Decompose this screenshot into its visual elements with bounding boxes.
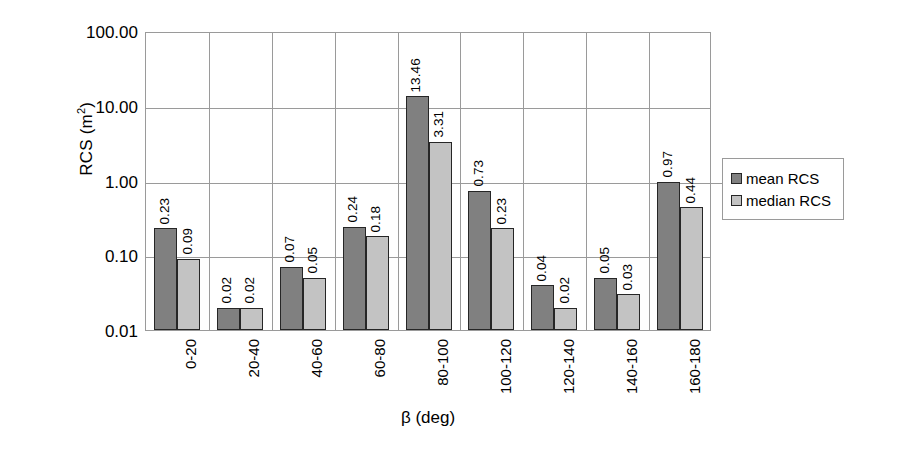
category-group: 13.463.31: [398, 33, 461, 330]
y-tick-label: 0.01: [48, 323, 138, 340]
x-tick-label: 160-180: [687, 339, 702, 394]
category-group: 0.020.02: [209, 33, 272, 330]
category-group: 0.070.05: [272, 33, 335, 330]
bar-value-label: 0.02: [220, 277, 234, 304]
bar-median-rcs: [617, 294, 640, 330]
bar-mean-rcs: [594, 278, 617, 330]
bar-value-label: 13.46: [409, 58, 423, 92]
bar-value-label: 0.02: [243, 277, 257, 304]
x-tick-label: 20-40: [246, 339, 261, 377]
bar-median-rcs: [177, 259, 200, 330]
y-tick-label: 100.00: [48, 24, 138, 41]
category-group: 0.730.23: [460, 33, 523, 330]
bar-mean-rcs: [154, 228, 177, 330]
bar-median-rcs: [240, 308, 263, 331]
bar-value-label: 0.24: [346, 196, 360, 223]
x-tick-label: 60-80: [372, 339, 387, 377]
x-tick-label: 140-160: [624, 339, 639, 394]
x-tick-label: 120-140: [561, 339, 576, 394]
legend-swatch-icon: [731, 173, 742, 184]
bar-median-rcs: [303, 278, 326, 330]
legend-item: mean RCS: [731, 167, 831, 189]
bar-value-label: 3.31: [432, 111, 446, 138]
category-group: 0.240.18: [335, 33, 398, 330]
bar-value-label: 0.02: [557, 277, 571, 304]
bar-value-label: 0.04: [534, 254, 548, 281]
bar-mean-rcs: [217, 308, 240, 331]
bar-value-label: 0.44: [683, 176, 697, 203]
bar-value-label: 0.23: [494, 198, 508, 225]
bar-mean-rcs: [468, 191, 491, 330]
bar-value-label: 0.23: [157, 198, 171, 225]
x-tick-label: 80-100: [435, 339, 450, 386]
bar-median-rcs: [554, 308, 577, 331]
legend-item-label: mean RCS: [746, 170, 819, 187]
y-tick-label: 1.00: [48, 173, 138, 190]
plot-area: 0.230.090.020.020.070.050.240.1813.463.3…: [145, 32, 711, 331]
bar-value-label: 0.03: [620, 264, 634, 291]
legend-item: median RCS: [731, 189, 831, 211]
bar-value-label: 0.73: [471, 160, 485, 187]
x-axis-title: β (deg): [145, 408, 711, 428]
legend-item-label: median RCS: [746, 192, 831, 209]
bar-value-label: 0.05: [597, 247, 611, 274]
y-tick-label: 10.00: [48, 98, 138, 115]
bar-value-label: 0.05: [306, 247, 320, 274]
bar-median-rcs: [491, 228, 514, 330]
bar-value-label: 0.18: [369, 205, 383, 232]
bar-value-label: 0.97: [660, 151, 674, 178]
bar-mean-rcs: [343, 227, 366, 330]
bar-value-label: 0.07: [283, 236, 297, 263]
category-group: 0.230.09: [146, 33, 209, 330]
legend-swatch-icon: [731, 195, 742, 206]
x-tick-label: 40-60: [309, 339, 324, 377]
chart-legend: mean RCSmedian RCS: [722, 158, 844, 220]
bar-value-label: 0.09: [180, 228, 194, 255]
bar-mean-rcs: [531, 285, 554, 330]
category-group: 0.050.03: [586, 33, 649, 330]
rcs-bar-chart: RCS (m2) 100.0010.001.000.100.01 0.230.0…: [0, 0, 920, 452]
x-tick-label: 100-120: [498, 339, 513, 394]
bar-mean-rcs: [280, 267, 303, 330]
bar-median-rcs: [680, 207, 703, 330]
bar-median-rcs: [429, 142, 452, 330]
category-group: 0.040.02: [523, 33, 586, 330]
bar-median-rcs: [366, 236, 389, 330]
y-axis-tick-labels: 100.0010.001.000.100.01: [48, 0, 138, 452]
bar-mean-rcs: [657, 182, 680, 331]
x-tick-label: 0-20: [183, 339, 198, 369]
y-tick-label: 0.10: [48, 248, 138, 265]
bar-mean-rcs: [406, 96, 429, 330]
category-group: 0.970.44: [649, 33, 712, 330]
